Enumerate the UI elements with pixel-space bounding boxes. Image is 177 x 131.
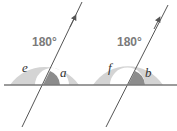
right-angle-b-label: b (145, 65, 152, 80)
right-180-label: 180° (117, 35, 142, 49)
angle-diagram: 180° e a 180° f b (0, 0, 177, 131)
left-angle-e-label: e (22, 60, 28, 75)
left-transversal-arrow (70, 17, 75, 27)
left-angle-group: 180° e a (10, 2, 82, 127)
right-transversal (106, 5, 168, 127)
left-angle-a-label: a (60, 65, 67, 80)
right-angle-group: 180° f b (93, 5, 168, 127)
left-180-label: 180° (32, 35, 57, 49)
right-semi-annulus (93, 66, 163, 85)
